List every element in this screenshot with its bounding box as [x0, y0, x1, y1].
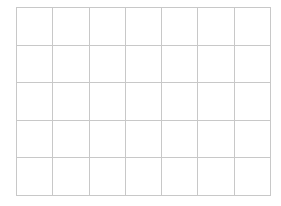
grid-cell [126, 158, 162, 196]
grid-cell [162, 158, 198, 196]
grid-cell [90, 46, 126, 84]
grid-cell [126, 121, 162, 159]
grid-cell [235, 46, 271, 84]
grid-cell [90, 83, 126, 121]
grid-cell [53, 46, 89, 84]
grid-cell [90, 121, 126, 159]
grid-cell [198, 46, 234, 84]
grid-cell [53, 83, 89, 121]
grid-cell [198, 121, 234, 159]
grid-cell [17, 83, 53, 121]
grid-cell [90, 158, 126, 196]
grid-cell [198, 158, 234, 196]
empty-grid [16, 7, 271, 196]
grid-cell [235, 83, 271, 121]
grid-cell [126, 83, 162, 121]
grid-cell [198, 83, 234, 121]
grid-cell [235, 158, 271, 196]
grid-cell [17, 8, 53, 46]
grid-cell [198, 8, 234, 46]
grid-cell [162, 8, 198, 46]
grid-cell [126, 46, 162, 84]
grid-cell [53, 158, 89, 196]
grid-cell [126, 8, 162, 46]
grid-cell [90, 8, 126, 46]
grid-cell [235, 121, 271, 159]
grid-cell [17, 46, 53, 84]
grid-cell [17, 121, 53, 159]
grid-cell [53, 8, 89, 46]
grid-cell [53, 121, 89, 159]
grid-cell [162, 46, 198, 84]
grid-cell [162, 121, 198, 159]
grid-cell [17, 158, 53, 196]
grid-cell [235, 8, 271, 46]
grid-cell [162, 83, 198, 121]
